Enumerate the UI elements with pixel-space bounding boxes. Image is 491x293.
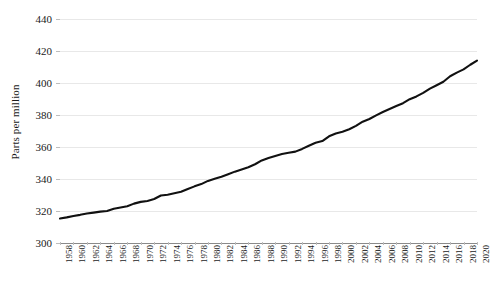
x-tick-mark — [100, 242, 101, 245]
x-tick-label: 1964 — [104, 245, 114, 263]
x-tick-label: 1978 — [199, 245, 209, 263]
x-axis-line — [60, 243, 477, 244]
x-tick-label: 1976 — [185, 245, 195, 263]
x-tick-mark — [235, 242, 236, 245]
x-tick-mark — [60, 242, 61, 245]
y-tick-label: 320 — [26, 205, 52, 217]
y-tick-label: 440 — [26, 13, 52, 25]
x-tick-label: 1958 — [64, 245, 74, 263]
x-tick-mark — [423, 242, 424, 245]
x-tick-label: 2016 — [454, 245, 464, 263]
x-tick-label: 1986 — [252, 245, 262, 263]
x-tick-mark — [195, 242, 196, 245]
x-tick-mark — [127, 242, 128, 245]
x-tick-mark — [289, 242, 290, 245]
x-tick-mark — [477, 242, 478, 245]
x-tick-label: 1980 — [212, 245, 222, 263]
y-tick-label: 340 — [26, 173, 52, 185]
x-tick-mark — [114, 242, 115, 245]
x-tick-mark — [383, 242, 384, 245]
x-tick-label: 1990 — [279, 245, 289, 263]
x-tick-label: 1962 — [91, 245, 101, 263]
x-tick-label: 2004 — [373, 245, 383, 263]
x-tick-mark — [410, 242, 411, 245]
x-tick-mark — [73, 242, 74, 245]
x-tick-label: 2006 — [387, 245, 397, 263]
x-tick-label: 2000 — [346, 245, 356, 263]
y-tick-label: 380 — [26, 109, 52, 121]
x-tick-label: 1984 — [239, 245, 249, 263]
y-tick-label: 360 — [26, 141, 52, 153]
x-tick-mark — [87, 242, 88, 245]
x-tick-label: 1972 — [158, 245, 168, 263]
x-tick-label: 1968 — [131, 245, 141, 263]
x-tick-mark — [248, 242, 249, 245]
x-tick-mark — [154, 242, 155, 245]
x-tick-mark — [356, 242, 357, 245]
x-tick-label: 1966 — [118, 245, 128, 263]
x-tick-label: 1998 — [333, 245, 343, 263]
x-tick-label: 1992 — [293, 245, 303, 263]
x-tick-mark — [464, 242, 465, 245]
x-tick-label: 1982 — [225, 245, 235, 263]
co2-series-line — [60, 61, 477, 219]
line-series-svg — [60, 19, 477, 243]
plot-area — [60, 19, 477, 243]
x-tick-mark — [450, 242, 451, 245]
x-tick-mark — [168, 242, 169, 245]
x-tick-mark — [141, 242, 142, 245]
x-tick-label: 2014 — [441, 245, 451, 263]
x-tick-mark — [369, 242, 370, 245]
x-tick-mark — [396, 242, 397, 245]
x-tick-mark — [437, 242, 438, 245]
x-tick-label: 2012 — [427, 245, 437, 263]
x-axis-tick-labels: 1958196019621964196619681970197219741976… — [60, 245, 477, 293]
x-tick-mark — [316, 242, 317, 245]
y-tick-label: 400 — [26, 77, 52, 89]
x-tick-mark — [221, 242, 222, 245]
x-tick-label: 1994 — [306, 245, 316, 263]
y-axis-label-text: Parts per million — [9, 84, 21, 159]
x-tick-label: 2010 — [414, 245, 424, 263]
x-tick-label: 1970 — [145, 245, 155, 263]
chart-page: Parts per million 3003203403603804004204… — [0, 0, 491, 293]
x-tick-mark — [181, 242, 182, 245]
x-tick-mark — [329, 242, 330, 245]
x-tick-label: 2018 — [468, 245, 478, 263]
x-tick-label: 2020 — [481, 245, 491, 263]
y-axis-tick-labels: 300320340360380400420440 — [26, 0, 52, 293]
x-tick-label: 1960 — [77, 245, 87, 263]
x-tick-mark — [262, 242, 263, 245]
y-tick-label: 300 — [26, 237, 52, 249]
x-tick-mark — [342, 242, 343, 245]
x-tick-label: 1988 — [266, 245, 276, 263]
x-tick-label: 1974 — [172, 245, 182, 263]
x-tick-mark — [302, 242, 303, 245]
x-tick-mark — [275, 242, 276, 245]
x-tick-label: 2008 — [400, 245, 410, 263]
x-tick-label: 1996 — [320, 245, 330, 263]
y-tick-label: 420 — [26, 45, 52, 57]
x-tick-mark — [208, 242, 209, 245]
x-tick-label: 2002 — [360, 245, 370, 263]
